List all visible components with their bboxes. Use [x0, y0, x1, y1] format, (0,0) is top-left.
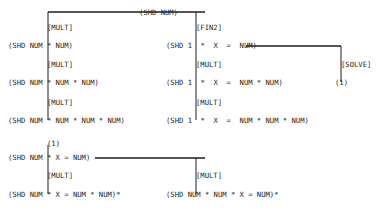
operator-mult-right-2[interactable]: [MULT]	[196, 60, 222, 69]
operator-mult-left-3[interactable]: [MULT]	[47, 98, 73, 107]
node-bottom-1[interactable]: (SHD NUM * X = NUM)	[8, 153, 90, 162]
node-left-1[interactable]: (SHD NUM * NUM)	[8, 41, 73, 50]
operator-mult-right-3[interactable]: [MULT]	[196, 98, 222, 107]
node-root[interactable]: (SHD NUM)	[139, 8, 178, 17]
diagram-canvas: (SHD NUM) [MULT] (SHD NUM * NUM) [MULT] …	[0, 0, 391, 216]
operator-solve[interactable]: [SOLVE]	[341, 60, 371, 69]
node-bottom-3[interactable]: (SHD NUM * NUM * X = NUM)*	[166, 190, 279, 199]
node-left-2[interactable]: (SHD NUM * NUM * NUM)	[8, 78, 99, 87]
operator-mult-left-1[interactable]: [MULT]	[47, 23, 73, 32]
diagram-edges	[0, 0, 391, 216]
node-right-3[interactable]: (SHD 1 * X = NUM * NUM * NUM)	[166, 116, 309, 125]
operator-fin2[interactable]: [FIN2]	[196, 23, 222, 32]
node-bottom-input-ref[interactable]: (1)	[47, 139, 60, 148]
node-right-1[interactable]: (SHD 1 * X = NUM)	[166, 41, 257, 50]
operator-mult-left-2[interactable]: [MULT]	[47, 60, 73, 69]
node-left-3[interactable]: (SHD NUM * NUM * NUM * NUM)	[8, 116, 125, 125]
node-bottom-2[interactable]: (SHD NUM * X = NUM * NUM)*	[8, 190, 121, 199]
operator-mult-bottom-left[interactable]: [MULT]	[47, 171, 73, 180]
operator-mult-bottom-right[interactable]: [MULT]	[196, 171, 222, 180]
node-right-2[interactable]: (SHD 1 * X = NUM * NUM)	[166, 78, 283, 87]
node-solve-output[interactable]: (1)	[335, 78, 348, 87]
